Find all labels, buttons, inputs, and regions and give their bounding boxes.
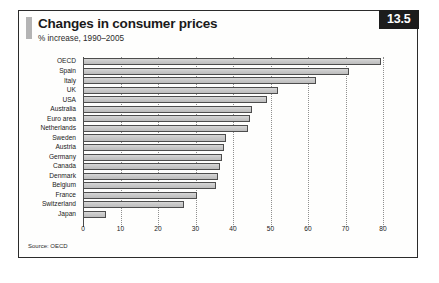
bar-row: [83, 201, 383, 208]
bar-row: [83, 134, 383, 141]
title-accent-bar: [26, 17, 32, 39]
category-label-australia: Australia: [50, 106, 76, 113]
category-label-netherlands: Netherlands: [40, 125, 76, 132]
bar-belgium: [83, 182, 216, 189]
category-label-spain: Spain: [59, 68, 76, 75]
bar-row: [83, 163, 383, 170]
plot-area: [83, 57, 383, 219]
x-tick-label-60: 60: [304, 225, 311, 232]
x-tick-label-20: 20: [154, 225, 161, 232]
category-label-belgium: Belgium: [52, 182, 76, 189]
figure-number-badge: 13.5: [379, 10, 419, 29]
bar-row: [83, 115, 383, 122]
category-label-france: France: [55, 192, 76, 199]
category-label-oecd: OECD: [57, 58, 76, 65]
bar-series: [83, 57, 383, 219]
bar-france: [83, 192, 197, 199]
bar-netherlands: [83, 125, 248, 132]
x-tick-label-10: 10: [117, 225, 124, 232]
x-tick-label-50: 50: [267, 225, 274, 232]
bar-row: [83, 58, 383, 65]
x-tick-label-70: 70: [342, 225, 349, 232]
category-label-sweden: Sweden: [52, 135, 76, 142]
category-label-austria: Austria: [55, 144, 76, 151]
bar-row: [83, 125, 383, 132]
x-tick-label-40: 40: [229, 225, 236, 232]
x-tick-label-80: 80: [379, 225, 386, 232]
bar-australia: [83, 106, 252, 113]
bar-row: [83, 68, 383, 75]
bar-row: [83, 77, 383, 84]
bar-row: [83, 211, 383, 218]
bar-austria: [83, 144, 224, 151]
bar-row: [83, 192, 383, 199]
bar-row: [83, 173, 383, 180]
category-label-usa: USA: [62, 97, 76, 104]
category-label-uk: UK: [67, 87, 76, 94]
bar-row: [83, 96, 383, 103]
bar-row: [83, 144, 383, 151]
bar-row: [83, 182, 383, 189]
bar-uk: [83, 87, 278, 94]
x-tick-label-30: 30: [192, 225, 199, 232]
bar-germany: [83, 154, 222, 161]
category-label-japan: Japan: [58, 211, 76, 218]
bar-japan: [83, 211, 106, 218]
bar-oecd: [83, 58, 381, 65]
gridline-80: [383, 57, 384, 227]
category-label-euro-area: Euro area: [47, 116, 76, 123]
category-label-canada: Canada: [53, 163, 76, 170]
chart-subtitle: % increase, 1990–2005: [38, 34, 124, 43]
figure-panel: Changes in consumer prices % increase, 1…: [18, 10, 418, 258]
bar-row: [83, 106, 383, 113]
category-label-germany: Germany: [49, 154, 76, 161]
category-axis-labels: OECDSpainItalyUKUSAAustraliaEuro areaNet…: [19, 57, 79, 219]
bar-italy: [83, 77, 316, 84]
bar-row: [83, 87, 383, 94]
bar-denmark: [83, 173, 218, 180]
category-label-italy: Italy: [64, 78, 76, 85]
bar-spain: [83, 68, 349, 75]
x-tick-label-0: 0: [81, 225, 85, 232]
bar-usa: [83, 96, 267, 103]
bar-row: [83, 154, 383, 161]
figure-header: Changes in consumer prices % increase, 1…: [19, 11, 417, 55]
category-label-denmark: Denmark: [49, 173, 76, 180]
bar-canada: [83, 163, 220, 170]
bar-euro-area: [83, 115, 250, 122]
value-axis-labels: 01020304050607080: [83, 225, 383, 237]
bar-switzerland: [83, 201, 184, 208]
category-label-switzerland: Switzerland: [42, 201, 76, 208]
page-title: Changes in consumer prices: [38, 16, 217, 31]
bar-sweden: [83, 134, 226, 141]
source-note: Source: OECD: [28, 243, 68, 249]
